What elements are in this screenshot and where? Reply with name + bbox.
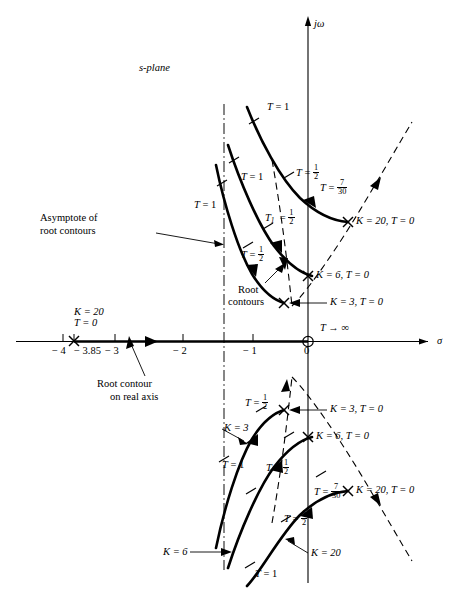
real-axis-arrowhead — [419, 338, 428, 344]
dashed-locus-arrow-upper — [370, 177, 381, 190]
asymptote-label-line2: root contours — [40, 225, 96, 237]
pole-label-k20-upper: K = 20, T = 0 — [356, 215, 414, 227]
real-axis-contour-label-line2: on real axis — [110, 391, 158, 403]
real-axis-ticks — [63, 334, 253, 341]
root-contours-label-line2: contours — [228, 296, 264, 308]
real-axis-label: σ — [437, 335, 442, 347]
contour-upper-k3 — [216, 165, 284, 303]
leader-lines — [131, 233, 327, 553]
label-thalf-low-lower: T = 12 — [284, 510, 307, 528]
tick-label--3: − 3 — [105, 345, 119, 357]
dashed-locus-arrow-down2 — [281, 379, 290, 392]
pole-label-k3-lower: K = 3, T = 0 — [330, 403, 383, 415]
real-axis-contour-label-line1: Root contour — [97, 378, 152, 390]
label-t-7-30-lower: T = 730 — [314, 483, 341, 501]
label-thalf-inner-upper: T = 12 — [241, 246, 264, 264]
tick-label--1: − 1 — [243, 345, 257, 357]
real-axis-contour-arrow — [145, 336, 158, 347]
tick-label--3-85: − 3.85 — [74, 345, 101, 357]
label-thalf-outer-upper: T = 12 — [296, 164, 319, 182]
asymptote-label-line1: Asymptote of — [40, 212, 97, 224]
pole-label-k6-lower: K = 6, T = 0 — [316, 430, 369, 442]
label-k6-lower-contour: K = 6 — [163, 546, 188, 558]
leader-arrow-k6-lower — [221, 548, 232, 556]
label-t1-inner-upper: T = 1 — [194, 199, 216, 211]
label-t1sub-half-upper: T1 = 12 — [265, 209, 295, 227]
root-contours-label-line1: Root — [238, 284, 258, 296]
tick-label--2: − 2 — [173, 345, 187, 357]
t-infinity-label: T → ∞ — [320, 322, 349, 334]
leader-asymptote — [156, 233, 219, 244]
leader-arrow-k3-lower — [289, 406, 300, 414]
pole-markers-group — [279, 217, 353, 496]
figure-root-contour-plot: s-plane jω σ − 4 − 3.85 − 3 − 2 − 1 0 K … — [0, 0, 459, 592]
pole-label-k6-upper: K = 6, T = 0 — [316, 269, 369, 281]
label-t1-outer-upper: T = 1 — [267, 101, 289, 113]
far-left-pole-t-label: T = 0 — [74, 317, 97, 329]
pole-label-k20-lower: K = 20, T = 0 — [356, 484, 414, 496]
s-plane-label: s-plane — [139, 62, 170, 74]
root-locus-dashed-upper-curve — [272, 160, 292, 306]
tick-label-0: 0 — [304, 345, 309, 357]
label-t1-mid-upper: T = 1 — [241, 171, 263, 183]
leader-k20-lower — [288, 541, 308, 553]
leader-arrow-k3-upper — [289, 299, 300, 307]
label-thalf-mid-lower: T = 12 — [266, 459, 289, 477]
pole-label-k3-upper: K = 3, T = 0 — [330, 296, 383, 308]
imag-axis-label: jω — [314, 18, 324, 30]
leader-arrow-asymptote — [214, 240, 224, 247]
leader-arrow-k20-lower — [285, 537, 295, 545]
label-t1-bottom-lower: T = 1 — [255, 568, 277, 580]
tick-label--4: − 4 — [52, 345, 66, 357]
imag-axis-arrowhead — [305, 16, 311, 26]
leader-real-axis-contour — [131, 344, 145, 376]
label-k3-lower-contour: K = 3 — [224, 422, 249, 434]
label-t1-left-lower: T = 1 — [222, 459, 244, 471]
label-t-7-30-upper: T = 730 — [320, 179, 347, 197]
label-thalf-upper-lower: T = 12 — [245, 394, 268, 412]
label-k20-lower-contour: K = 20 — [311, 547, 341, 559]
leader-arrow-k3-contour-lower — [238, 437, 248, 445]
